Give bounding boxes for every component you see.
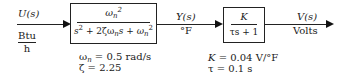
k-value: = 0.04 V/°F — [215, 52, 278, 63]
input-arrow-line — [17, 24, 65, 25]
wn-value: = 0.5 rad/s — [92, 51, 151, 62]
block2-denominator: τs + 1 — [224, 27, 264, 37]
den-mid: + 2ζω — [83, 26, 114, 36]
block2-fraction-bar — [231, 24, 257, 25]
superscript-2: 2 — [117, 6, 121, 14]
output-arrowhead — [326, 20, 334, 28]
first-order-sensor-block: K τs + 1 — [223, 7, 265, 43]
block1-numerator: ωn2 — [71, 8, 156, 18]
output-signal-label: V(s) — [297, 11, 317, 22]
block2-numerator: K — [224, 12, 264, 22]
middle-signal-label: Y(s) — [176, 11, 196, 22]
input-unit-numerator: Btu — [18, 30, 36, 41]
block2-param-k: K = 0.04 V/°F — [208, 52, 278, 63]
block2-param-tau: τ = 0.1 s — [208, 63, 252, 74]
second-order-transfer-block: ωn2 s2 + 2ζωns + ωn2 — [70, 3, 157, 44]
middle-arrowhead — [215, 20, 223, 28]
input-unit-denominator: h — [18, 43, 36, 54]
block1-fraction-bar — [77, 22, 150, 23]
den-s2: s + ω — [119, 26, 144, 36]
output-unit-label: Volts — [293, 25, 318, 36]
omega-symbol: ω — [79, 51, 87, 62]
block1-denominator: s2 + 2ζωns + ωn2 — [71, 26, 156, 36]
middle-unit-label: °F — [180, 25, 192, 36]
block1-param-zeta: ζ = 2.25 — [79, 62, 121, 73]
block1-param-wn: ωn = 0.5 rad/s — [79, 51, 151, 62]
omega-symbol: ω — [105, 7, 113, 18]
input-signal-label: U(s) — [18, 8, 39, 19]
